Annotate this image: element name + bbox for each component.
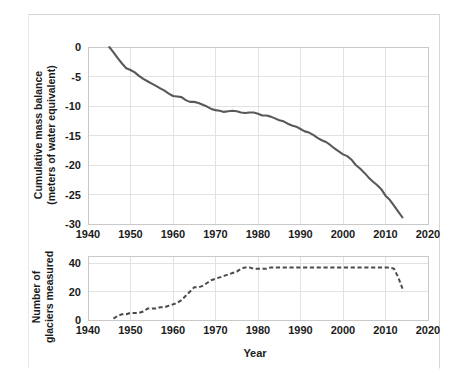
glacier-mass-balance-figure: 0-5-10-15-20-25-30 194019501960197019801… <box>0 0 454 381</box>
bottom-x-tick-labels: 194019501960197019801990200020102020 <box>76 324 440 336</box>
svg-text:1940: 1940 <box>76 324 100 336</box>
svg-text:1980: 1980 <box>246 324 270 336</box>
svg-text:1990: 1990 <box>288 324 312 336</box>
svg-text:20: 20 <box>69 286 81 298</box>
svg-text:2010: 2010 <box>373 324 397 336</box>
svg-text:1950: 1950 <box>118 324 142 336</box>
bottom-y-axis-title-line1: Number of <box>30 270 42 323</box>
svg-text:2000: 2000 <box>331 324 355 336</box>
svg-text:1960: 1960 <box>161 324 185 336</box>
svg-text:2020: 2020 <box>416 324 440 336</box>
bottom-y-tick-labels: 02040 <box>69 257 81 326</box>
bottom-gridlines <box>88 256 428 320</box>
number-of-glaciers-chart: 02040 1940195019601970198019902000201020… <box>0 0 454 381</box>
svg-text:40: 40 <box>69 257 81 269</box>
svg-text:1970: 1970 <box>203 324 227 336</box>
bottom-y-axis-title-line2: glaciers measured <box>43 251 55 343</box>
x-axis-title: Year <box>243 347 267 359</box>
